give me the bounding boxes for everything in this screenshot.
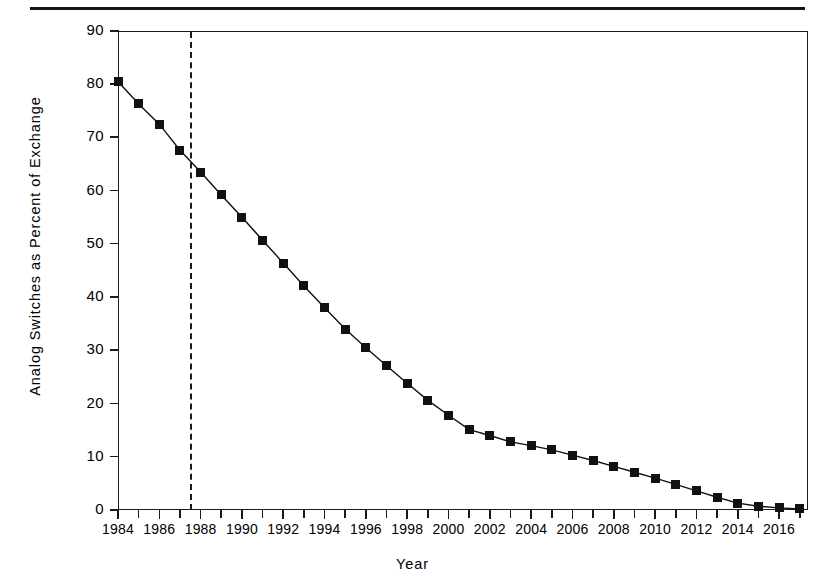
y-tick-label: 80	[60, 74, 104, 91]
data-point-2007	[589, 456, 598, 465]
x-tick-mark	[200, 510, 202, 519]
data-point-1995	[341, 325, 350, 334]
data-point-2003	[506, 437, 515, 446]
data-point-2002	[485, 431, 494, 440]
x-tick-mark	[159, 510, 161, 519]
x-axis-title: Year	[0, 556, 825, 572]
data-point-1988	[196, 168, 205, 177]
x-tick-mark	[737, 510, 739, 519]
y-tick-label: 40	[60, 287, 104, 304]
data-point-2013	[713, 493, 722, 502]
x-tick-mark	[179, 510, 181, 518]
x-tick-mark	[427, 510, 429, 518]
x-tick-mark	[613, 510, 615, 519]
reference-vline	[190, 32, 192, 510]
y-tick-mark	[110, 136, 119, 138]
data-point-2017	[795, 504, 804, 513]
data-point-1992	[279, 259, 288, 268]
x-tick-mark	[220, 510, 222, 518]
data-point-1986	[155, 120, 164, 129]
data-point-2000	[444, 411, 453, 420]
y-tick-mark	[110, 30, 119, 32]
data-point-1993	[299, 281, 308, 290]
y-tick-mark	[110, 349, 119, 351]
plot-area	[118, 31, 808, 510]
y-axis-title: Analog Switches as Percent of Exchange	[27, 46, 43, 446]
data-point-2006	[568, 451, 577, 460]
y-tick-label: 20	[60, 394, 104, 411]
x-tick-mark	[448, 510, 450, 519]
x-tick-mark	[716, 510, 718, 518]
x-tick-mark	[530, 510, 532, 519]
x-tick-mark	[406, 510, 408, 519]
y-tick-mark	[110, 403, 119, 405]
data-point-1997	[382, 361, 391, 370]
data-point-2009	[630, 468, 639, 477]
data-point-1984	[114, 77, 123, 86]
data-point-2001	[465, 425, 474, 434]
x-tick-mark	[365, 510, 367, 519]
chart-figure: Analog Switches as Percent of Exchange Y…	[0, 0, 825, 587]
data-point-2010	[651, 474, 660, 483]
data-point-2015	[754, 502, 763, 511]
y-tick-mark	[110, 243, 119, 245]
x-tick-label: 2016	[751, 521, 807, 537]
y-tick-label: 90	[60, 21, 104, 38]
y-tick-mark	[110, 456, 119, 458]
page-top-rule	[30, 7, 805, 10]
data-point-2014	[733, 499, 742, 508]
x-tick-mark	[510, 510, 512, 518]
data-point-1990	[237, 213, 246, 222]
x-tick-mark	[468, 510, 470, 518]
data-point-1987	[175, 146, 184, 155]
x-tick-mark	[551, 510, 553, 518]
data-point-2004	[527, 441, 536, 450]
data-point-1985	[134, 99, 143, 108]
x-tick-mark	[489, 510, 491, 519]
x-tick-mark	[696, 510, 698, 519]
data-point-2016	[775, 503, 784, 512]
y-tick-label: 60	[60, 181, 104, 198]
x-tick-mark	[675, 510, 677, 518]
data-point-1989	[217, 190, 226, 199]
y-tick-label: 0	[60, 500, 104, 517]
data-point-1991	[258, 236, 267, 245]
x-tick-mark	[241, 510, 243, 519]
x-tick-mark	[344, 510, 346, 518]
x-tick-mark	[758, 510, 760, 518]
x-tick-mark	[117, 510, 119, 519]
data-point-1999	[423, 396, 432, 405]
y-tick-mark	[110, 296, 119, 298]
data-point-1994	[320, 303, 329, 312]
data-point-2005	[547, 445, 556, 454]
y-tick-label: 30	[60, 340, 104, 357]
x-tick-mark	[282, 510, 284, 519]
x-tick-mark	[262, 510, 264, 518]
data-point-2008	[609, 462, 618, 471]
data-point-1998	[403, 379, 412, 388]
data-point-2012	[692, 486, 701, 495]
x-tick-mark	[592, 510, 594, 518]
x-tick-mark	[572, 510, 574, 519]
y-tick-label: 70	[60, 127, 104, 144]
x-tick-mark	[634, 510, 636, 518]
x-tick-mark	[386, 510, 388, 518]
x-tick-mark	[138, 510, 140, 518]
x-tick-mark	[654, 510, 656, 519]
x-tick-mark	[324, 510, 326, 519]
y-tick-label: 50	[60, 234, 104, 251]
y-tick-label: 10	[60, 447, 104, 464]
x-tick-mark	[303, 510, 305, 518]
y-tick-mark	[110, 190, 119, 192]
data-point-1996	[361, 343, 370, 352]
data-point-2011	[671, 480, 680, 489]
